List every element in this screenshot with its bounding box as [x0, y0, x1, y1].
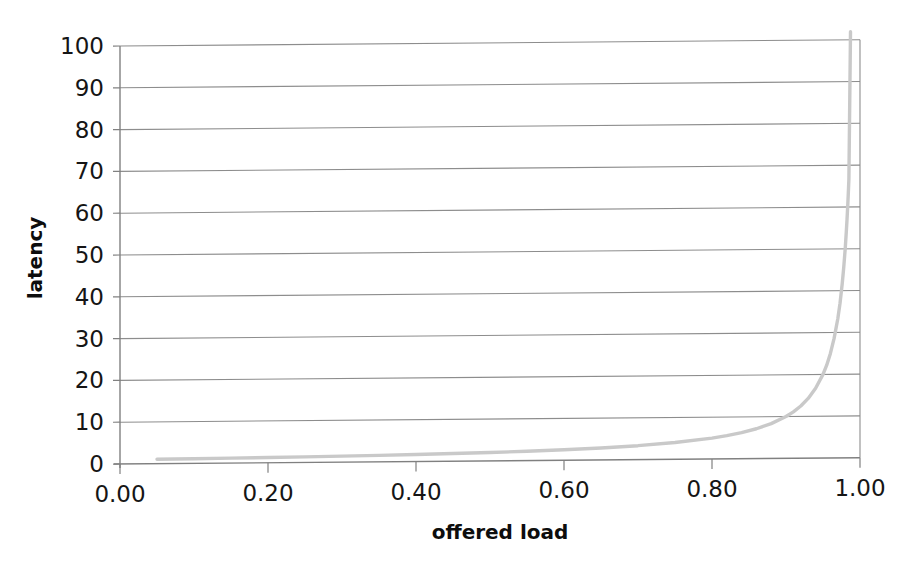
chart-canvas: 0102030405060708090100 0.000.200.400.600…	[0, 0, 915, 566]
y-tick-labels-group: 0102030405060708090100	[60, 33, 104, 477]
tickmarks-group	[113, 46, 860, 474]
y-tick-label-40: 40	[75, 284, 104, 310]
y-tick-label-20: 20	[75, 367, 104, 393]
gridline-y-20	[120, 374, 860, 380]
y-tick-label-70: 70	[75, 158, 104, 184]
y-tick-label-60: 60	[75, 200, 104, 226]
x-tick-label-0.80: 0.80	[686, 476, 737, 502]
x-tick-label-0.60: 0.60	[538, 477, 589, 503]
x-tick-label-0.40: 0.40	[390, 479, 441, 505]
y-tick-label-50: 50	[75, 242, 104, 268]
latency-vs-offered-load-chart: 0102030405060708090100 0.000.200.400.600…	[0, 0, 915, 566]
x-tick-label-0.20: 0.20	[242, 480, 293, 506]
y-axis-title: latency	[23, 217, 47, 300]
x-tick-label-1.00: 1.00	[834, 475, 885, 501]
y-tick-label-100: 100	[60, 33, 104, 59]
x-tick-labels-group: 0.000.200.400.600.801.00	[94, 475, 885, 507]
data-series-group	[157, 32, 851, 460]
series-line-latency	[157, 32, 851, 460]
x-axis-title: offered load	[432, 520, 569, 544]
gridline-y-30	[120, 332, 860, 338]
gridline-y-50	[120, 249, 860, 255]
y-tick-label-80: 80	[75, 117, 104, 143]
gridline-y-70	[120, 165, 860, 171]
gridline-y-100	[120, 40, 860, 46]
y-tick-label-0: 0	[89, 451, 104, 477]
gridline-y-10	[120, 416, 860, 422]
gridlines-group	[120, 40, 860, 422]
gridline-y-90	[120, 82, 860, 88]
gridline-y-40	[120, 291, 860, 297]
y-tick-label-90: 90	[75, 75, 104, 101]
y-tick-label-10: 10	[75, 409, 104, 435]
gridline-y-60	[120, 207, 860, 213]
x-tick-label-0.00: 0.00	[94, 481, 145, 507]
y-tick-label-30: 30	[75, 326, 104, 352]
gridline-y-80	[120, 123, 860, 129]
